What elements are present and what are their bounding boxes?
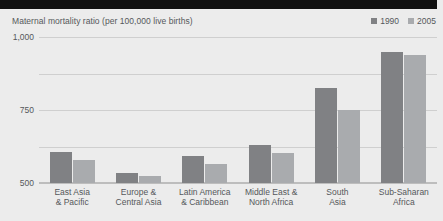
x-axis-label-line: Sub-Saharan (371, 187, 437, 197)
legend-swatch-2005 (408, 18, 414, 24)
bar-group (172, 37, 238, 183)
bar-1990[interactable] (116, 173, 138, 183)
x-axis-label-line: Asia (304, 197, 370, 207)
x-axis-label-line: Africa (371, 197, 437, 207)
chart-title: Maternal mortality ratio (per 100,000 li… (12, 16, 193, 26)
bar-2005[interactable] (272, 153, 294, 183)
x-axis-label: Latin America& Caribbean (172, 187, 238, 207)
bar-1990[interactable] (182, 156, 204, 183)
x-axis-label-line: & Pacific (39, 197, 105, 207)
x-axis-label-line: & Caribbean (172, 197, 238, 207)
bar-1990[interactable] (381, 52, 403, 183)
x-axis-label-line: South (304, 187, 370, 197)
legend-label-1990: 1990 (380, 16, 399, 26)
bar-group (238, 37, 304, 183)
bar-2005[interactable] (73, 160, 95, 183)
x-axis-label-line: East Asia (39, 187, 105, 197)
x-axis-label: Europe &Central Asia (105, 187, 171, 207)
bar-1990[interactable] (50, 152, 72, 183)
x-axis-label: Sub-SaharanAfrica (371, 187, 437, 207)
chart-legend: 1990 2005 (371, 16, 436, 26)
bar-2005[interactable] (338, 110, 360, 183)
bar-group (39, 37, 105, 183)
y-axis-tick-label: 750 (20, 105, 34, 115)
chart-figure: Maternal mortality ratio (per 100,000 li… (0, 0, 443, 221)
bar-group (371, 37, 437, 183)
x-axis-label-line: Central Asia (105, 197, 171, 207)
top-black-rule (0, 0, 437, 9)
gridline: 0 (39, 183, 437, 184)
legend-swatch-1990 (371, 18, 377, 24)
bar-1990[interactable] (249, 145, 271, 183)
plot-area: 02505007501,000 (39, 37, 437, 183)
legend-item-1990[interactable]: 1990 (371, 16, 399, 26)
bar-1990[interactable] (315, 88, 337, 183)
y-axis-tick-label: 1,000 (13, 32, 34, 42)
x-axis-label: Middle East &North Africa (238, 187, 304, 207)
x-axis-label-line: Latin America (172, 187, 238, 197)
x-axis-label: East Asia& Pacific (39, 187, 105, 207)
x-axis-label-line: Middle East & (238, 187, 304, 197)
bar-group (304, 37, 370, 183)
legend-label-2005: 2005 (417, 16, 436, 26)
bar-groups (39, 37, 437, 183)
bar-group (105, 37, 171, 183)
x-axis-label-line: Europe & (105, 187, 171, 197)
bar-2005[interactable] (205, 164, 227, 183)
y-axis-tick-label: 500 (20, 178, 34, 188)
x-axis-label: SouthAsia (304, 187, 370, 207)
x-axis-labels: East Asia& PacificEurope &Central AsiaLa… (39, 187, 437, 207)
bar-2005[interactable] (404, 55, 426, 183)
x-axis-label-line: North Africa (238, 197, 304, 207)
legend-item-2005[interactable]: 2005 (408, 16, 436, 26)
bar-2005[interactable] (139, 176, 161, 183)
